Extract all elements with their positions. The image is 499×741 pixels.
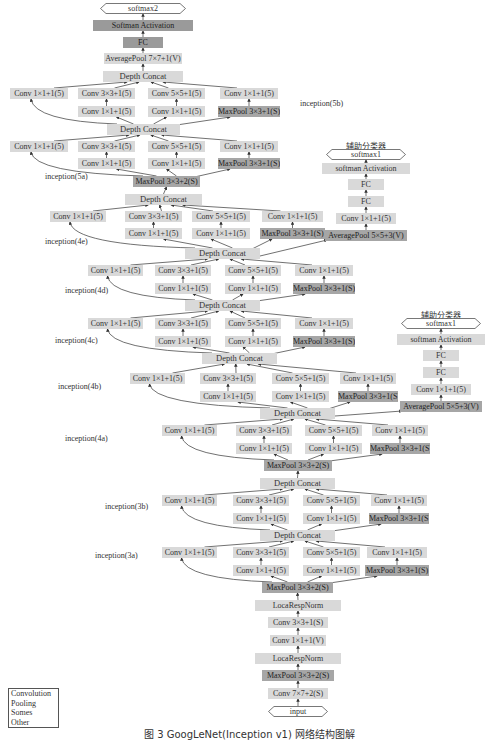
inception-3b-reduce3x3: Conv 1×1+1(5) bbox=[233, 513, 289, 524]
depth-concat-4d: Depth Concat bbox=[185, 248, 260, 259]
inception-4d-reduce3x3: Conv 1×1+1(5) bbox=[155, 283, 211, 294]
inception-4e-reduce5x5: Conv 1×1+1(5) bbox=[192, 228, 250, 239]
inception-5a-conv1x1: Conv 1×1+1(5) bbox=[10, 141, 68, 152]
depth-concat-4e: Depth Concat bbox=[125, 194, 202, 205]
inception-4a-reduce5x5: Conv 1×1+1(5) bbox=[305, 443, 362, 454]
inception-4e-conv1x1: Conv 1×1+1(5) bbox=[50, 211, 106, 222]
conv-7x7-stem: Conv 7×7+2(S) bbox=[268, 688, 328, 699]
maxpool-3x3-stride2-4: MaxPool 3×3+2(S) bbox=[133, 176, 200, 187]
inception-4c-conv1x1: Conv 1×1+1(5) bbox=[88, 318, 143, 329]
aux-classifier-1-conv1x1: Conv 1×1+1(5) bbox=[336, 213, 396, 224]
inception-5b-reduce3x3: Conv 1×1+1(5) bbox=[78, 106, 135, 117]
inception-5b-conv3x3: Conv 3×3+1(5) bbox=[78, 88, 135, 99]
inception-4a-label: inception(4a) bbox=[65, 434, 108, 443]
inception-3b-pool-proj: Conv 1×1+1(5) bbox=[371, 495, 427, 506]
depth-concat-4a: Depth Concat bbox=[260, 408, 335, 419]
inception-5b-pool-proj: Conv 1×1+1(5) bbox=[220, 88, 278, 99]
aux-classifier-2-softmax1: softmax1 bbox=[401, 318, 481, 329]
inception-5a-conv5x5: Conv 5×5+1(5) bbox=[148, 141, 205, 152]
inception-3b-conv5x5: Conv 5×5+1(5) bbox=[303, 495, 360, 506]
aux-classifier-1-fc1: FC bbox=[348, 196, 384, 207]
inception-3a-conv1x1: Conv 1×1+1(5) bbox=[162, 547, 217, 558]
maxpool-3x3-stride2-1: MaxPool 3×3+2(S) bbox=[262, 670, 334, 681]
inception-3a-reduce3x3: Conv 1×1+1(5) bbox=[233, 565, 289, 576]
legend-item: Convolution bbox=[11, 689, 56, 699]
inception-4a-maxpool: MaxPool 3×3+1(S) bbox=[370, 443, 430, 454]
inception-4c-maxpool: MaxPool 3×3+1(S) bbox=[293, 336, 355, 347]
inception-4a-pool-proj: Conv 1×1+1(5) bbox=[372, 425, 428, 436]
aux-classifier-1-fc2: FC bbox=[348, 179, 384, 190]
aux-classifier-1-softmax1: softmax1 bbox=[326, 149, 406, 160]
depth-concat-3b: Depth Concat bbox=[260, 478, 335, 489]
inception-4e-conv5x5: Conv 5×5+1(5) bbox=[192, 211, 250, 222]
inception-5a-maxpool: MaxPool 3×3+1(S) bbox=[218, 158, 280, 169]
local-resp-norm-1: LocaRespNorm bbox=[255, 653, 341, 664]
inception-4b-maxpool: MaxPool 3×3+1(S) bbox=[338, 391, 398, 402]
inception-4d-conv5x5: Conv 5×5+1(5) bbox=[225, 265, 281, 276]
inception-4a-conv3x3: Conv 3×3+1(5) bbox=[236, 425, 292, 436]
maxpool-3x3-stride2-3: MaxPool 3×3+2(S) bbox=[264, 460, 332, 471]
inception-4a-reduce3x3: Conv 1×1+1(5) bbox=[236, 443, 292, 454]
legend: ConvolutionPoolingSomesOther bbox=[8, 688, 59, 728]
inception-4b-conv5x5: Conv 5×5+1(5) bbox=[272, 373, 329, 384]
inception-5a-pool-proj: Conv 1×1+1(5) bbox=[220, 141, 278, 152]
inception-5a-reduce3x3: Conv 1×1+1(5) bbox=[78, 158, 135, 169]
local-resp-norm-2: LocaRespNorm bbox=[255, 600, 341, 611]
inception-4d-maxpool: MaxPool 3×3+1(S) bbox=[293, 283, 355, 294]
aux-classifier-1-avgpool: AveragePool 5×5+3(V) bbox=[325, 230, 407, 241]
inception-4e-label: inception(4e) bbox=[45, 237, 88, 246]
aux-classifier-2-conv1x1: Conv 1×1+1(5) bbox=[411, 384, 471, 395]
inception-4c-conv3x3: Conv 3×3+1(5) bbox=[155, 318, 211, 329]
inception-4c-conv5x5: Conv 5×5+1(5) bbox=[225, 318, 281, 329]
inception-4c-pool-proj: Conv 1×1+1(5) bbox=[295, 318, 353, 329]
depth-concat-4c: Depth Concat bbox=[185, 300, 260, 311]
legend-item: Pooling bbox=[11, 699, 56, 709]
inception-4c-label: inception(4c) bbox=[55, 336, 98, 345]
aux-classifier-1-softmax-activation: softman Activation bbox=[322, 163, 410, 174]
inception-4b-pool-proj: Conv 1×1+1(5) bbox=[340, 373, 396, 384]
avgpool-7x7: AveragePool 7×7+1(V) bbox=[104, 53, 182, 64]
depth-concat-5a: Depth Concat bbox=[107, 124, 180, 135]
maxpool-3x3-stride2-2: MaxPool 3×3+2(S) bbox=[262, 582, 333, 593]
depth-concat-5b: Depth Concat bbox=[103, 71, 183, 82]
inception-4d-pool-proj: Conv 1×1+1(5) bbox=[295, 265, 353, 276]
inception-3a-pool-proj: Conv 1×1+1(5) bbox=[367, 547, 427, 558]
inception-5b-conv5x5: Conv 5×5+1(5) bbox=[148, 88, 205, 99]
softmax-activation-main: Softman Activation bbox=[93, 20, 193, 31]
aux-classifier-2-softmax-activation: softman Activation bbox=[397, 334, 485, 345]
inception-4c-reduce3x3: Conv 1×1+1(5) bbox=[155, 336, 211, 347]
softmax2-output: softmax2 bbox=[100, 3, 186, 14]
inception-3a-reduce5x5: Conv 1×1+1(5) bbox=[303, 565, 360, 576]
inception-4b-label: inception(4b) bbox=[58, 382, 101, 391]
inception-5a-label: inception(5a) bbox=[45, 172, 88, 181]
depth-concat-4b: Depth Concat bbox=[202, 353, 277, 364]
inception-4e-reduce3x3: Conv 1×1+1(5) bbox=[125, 228, 182, 239]
conv-3x3-stem: Conv 3×3+1(S) bbox=[268, 617, 328, 628]
inception-4c-reduce5x5: Conv 1×1+1(5) bbox=[225, 336, 281, 347]
aux-classifier-2-fc1: FC bbox=[423, 367, 459, 378]
inception-4d-reduce5x5: Conv 1×1+1(5) bbox=[225, 283, 281, 294]
inception-3a-conv3x3: Conv 3×3+1(5) bbox=[233, 547, 289, 558]
inception-5a-conv3x3: Conv 3×3+1(5) bbox=[78, 141, 135, 152]
inception-3b-conv1x1: Conv 1×1+1(5) bbox=[162, 495, 217, 506]
inception-4d-label: inception(4d) bbox=[65, 286, 108, 295]
inception-5a-reduce5x5: Conv 1×1+1(5) bbox=[148, 158, 205, 169]
inception-3b-label: inception(3b) bbox=[105, 502, 148, 511]
inception-5b-maxpool: MaxPool 3×3+1(S) bbox=[218, 106, 280, 117]
inception-4d-conv3x3: Conv 3×3+1(5) bbox=[155, 265, 211, 276]
inception-4e-maxpool: MaxPool 3×3+1(S) bbox=[260, 228, 325, 239]
inception-3b-maxpool: MaxPool 3×3+1(S) bbox=[369, 513, 429, 524]
inception-5b-label: inception(5b) bbox=[300, 99, 343, 108]
inception-4a-conv5x5: Conv 5×5+1(5) bbox=[305, 425, 362, 436]
inception-5b-conv1x1: Conv 1×1+1(5) bbox=[10, 88, 68, 99]
inception-3b-reduce5x5: Conv 1×1+1(5) bbox=[303, 513, 360, 524]
inception-4d-conv1x1: Conv 1×1+1(5) bbox=[88, 265, 143, 276]
inception-4e-conv3x3: Conv 3×3+1(5) bbox=[125, 211, 182, 222]
inception-4b-reduce3x3: Conv 1×1+1(5) bbox=[200, 391, 256, 402]
inception-4e-pool-proj: Conv 1×1+1(5) bbox=[262, 211, 323, 222]
fc-main: FC bbox=[123, 37, 163, 48]
inception-3a-conv5x5: Conv 5×5+1(5) bbox=[303, 547, 360, 558]
inception-4b-conv1x1: Conv 1×1+1(5) bbox=[130, 373, 185, 384]
aux-classifier-2-fc2: FC bbox=[423, 350, 459, 361]
